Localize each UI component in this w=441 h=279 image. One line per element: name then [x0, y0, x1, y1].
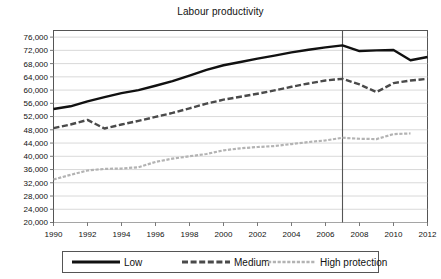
x-axis-ticks: 1990199219941996199820002002200420062008…: [45, 223, 437, 239]
y-tick-label: 32,000: [24, 179, 49, 188]
x-tick-label: 1990: [45, 230, 63, 239]
plot-background: [54, 31, 428, 223]
y-tick-label: 40,000: [24, 152, 49, 161]
x-tick-label: 1994: [113, 230, 131, 239]
y-tick-label: 60,000: [24, 86, 49, 95]
chart-container: Labour productivity 20,00024,00028,00032…: [0, 0, 441, 279]
y-tick-label: 64,000: [24, 73, 49, 82]
x-tick-label: 2004: [283, 230, 301, 239]
y-tick-label: 20,000: [24, 218, 49, 227]
y-tick-label: 52,000: [24, 112, 49, 121]
x-tick-label: 2012: [419, 230, 437, 239]
legend-label: Medium: [234, 257, 270, 268]
y-axis-ticks: 20,00024,00028,00032,00036,00040,00044,0…: [24, 33, 54, 227]
x-tick-label: 1998: [181, 230, 199, 239]
x-tick-label: 2008: [351, 230, 369, 239]
x-tick-label: 2002: [249, 230, 267, 239]
x-tick-label: 2000: [215, 230, 233, 239]
x-tick-label: 2010: [385, 230, 403, 239]
legend-label: Low: [124, 257, 143, 268]
y-tick-label: 28,000: [24, 192, 49, 201]
y-tick-label: 68,000: [24, 60, 49, 69]
y-tick-label: 44,000: [24, 139, 49, 148]
chart-legend: LowMediumHigh protection: [63, 252, 388, 273]
y-tick-label: 36,000: [24, 165, 49, 174]
x-tick-label: 1992: [79, 230, 97, 239]
y-tick-label: 56,000: [24, 99, 49, 108]
y-tick-label: 24,000: [24, 205, 49, 214]
x-tick-label: 1996: [147, 230, 165, 239]
y-tick-label: 76,000: [24, 33, 49, 42]
x-tick-label: 2006: [317, 230, 335, 239]
y-tick-label: 48,000: [24, 126, 49, 135]
chart-plot: 20,00024,00028,00032,00036,00040,00044,0…: [0, 0, 441, 279]
legend-label: High protection: [320, 257, 387, 268]
y-tick-label: 72,000: [24, 46, 49, 55]
